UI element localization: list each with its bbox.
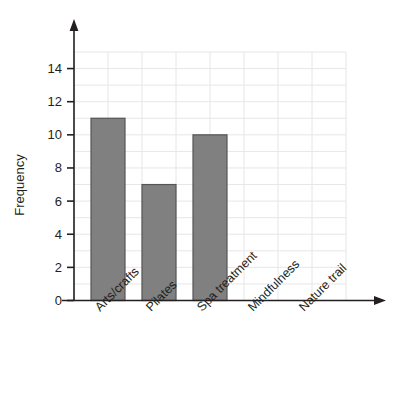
- y-axis-tick-label: 0: [55, 293, 62, 308]
- chart-canvas: 14121086420 Arts/craftsPilatesSpa treatm…: [0, 0, 397, 397]
- y-axis-title: Frequency: [12, 154, 27, 216]
- bar: [91, 118, 125, 300]
- y-axis-tick-label: 10: [48, 127, 62, 142]
- y-axis-tick-label: 4: [55, 227, 62, 242]
- y-axis-tick-label: 6: [55, 194, 62, 209]
- y-axis-tick-label: 14: [48, 61, 62, 76]
- y-axis-tick-label: 2: [55, 260, 62, 275]
- y-axis-tick-label: 12: [48, 94, 62, 109]
- y-axis-tick-label: 8: [55, 160, 62, 175]
- bar-chart: 14121086420 Arts/craftsPilatesSpa treatm…: [0, 0, 397, 397]
